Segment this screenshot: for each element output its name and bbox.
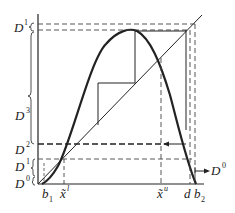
cobweb-diagram: D 1 D 3 D 2 D 1 D 0 D 0 b 1 x̃ l x̃ u d …: [0, 0, 235, 213]
label-d0: D 0: [14, 174, 30, 191]
svg-text:l: l: [67, 184, 70, 193]
left-arrow-icon: [163, 142, 169, 147]
svg-text:x̃: x̃: [156, 186, 164, 201]
label-d: d: [184, 186, 191, 201]
svg-text:D: D: [210, 163, 221, 178]
svg-text:1: 1: [24, 18, 28, 27]
svg-text:1: 1: [26, 157, 30, 166]
brace-d1: [31, 159, 35, 176]
svg-text:u: u: [164, 184, 168, 193]
brace-d1-top: [29, 23, 34, 31]
svg-text:b: b: [194, 186, 201, 201]
svg-text:x̃: x̃: [59, 186, 67, 201]
svg-text:2: 2: [201, 195, 205, 204]
label-d0-arrow: D 0: [210, 161, 226, 178]
label-d3: D 3: [14, 106, 30, 123]
label-x-l: x̃ l: [59, 184, 70, 201]
brace-d0: [32, 177, 35, 185]
svg-text:3: 3: [26, 106, 30, 115]
svg-text:d: d: [184, 186, 191, 201]
label-x-u: x̃ u: [156, 184, 168, 201]
svg-text:2: 2: [26, 140, 30, 149]
svg-text:D: D: [14, 176, 25, 191]
map-curve: [42, 30, 196, 184]
label-d1-top: D 1: [13, 18, 28, 35]
svg-text:0: 0: [26, 174, 30, 183]
svg-text:0: 0: [222, 161, 226, 170]
svg-text:D: D: [14, 108, 25, 123]
label-d1: D 1: [14, 157, 30, 174]
label-b2: b 2: [194, 186, 205, 204]
label-b1: b 1: [42, 186, 53, 204]
svg-text:D: D: [13, 20, 24, 35]
svg-text:D: D: [14, 142, 25, 157]
svg-text:D: D: [14, 159, 25, 174]
brace-d3: [28, 32, 34, 144]
svg-text:b: b: [42, 186, 49, 201]
label-d2: D 2: [14, 140, 30, 157]
svg-text:1: 1: [49, 195, 53, 204]
right-arrow-icon: [204, 169, 210, 174]
